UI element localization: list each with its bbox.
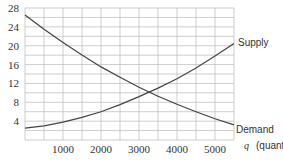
y-tick-label: 28 [8, 2, 20, 14]
x-axis-unit: (quantity) [256, 140, 283, 151]
y-tick-label: 16 [8, 59, 20, 71]
x-tick-label: 1000 [52, 143, 75, 155]
grid [25, 8, 234, 140]
y-tick-label: 20 [8, 40, 20, 52]
y-tick-label: 8 [14, 96, 20, 108]
x-tick-label: 5000 [204, 143, 227, 155]
y-tick-label: 12 [8, 77, 19, 89]
y-tick-labels: 481216202428 [8, 2, 20, 127]
x-tick-label: 2000 [90, 143, 113, 155]
supply-demand-chart: 481216202428 10002000300040005000 Supply… [0, 0, 283, 162]
demand-curve [25, 15, 234, 125]
demand-label: Demand [236, 124, 274, 135]
y-tick-label: 4 [14, 115, 20, 127]
y-tick-label: 24 [8, 21, 20, 33]
x-axis-symbol: q [244, 140, 249, 151]
supply-curve [25, 43, 234, 128]
supply-label: Supply [238, 37, 269, 48]
x-tick-label: 3000 [128, 143, 151, 155]
x-tick-label: 4000 [166, 143, 189, 155]
x-tick-labels: 10002000300040005000 [52, 143, 227, 155]
x-axis-label: q (quantity) [244, 135, 283, 152]
